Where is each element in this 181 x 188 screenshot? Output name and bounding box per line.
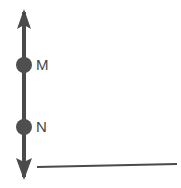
diagram-canvas: M N (0, 0, 181, 188)
vertical-axis-diagram: M N (0, 0, 181, 188)
point-marker-m (16, 57, 32, 73)
point-label-m: M (36, 56, 49, 73)
horizontal-reference-line (37, 164, 177, 167)
point-marker-n (16, 119, 32, 135)
point-label-n: N (36, 118, 47, 135)
